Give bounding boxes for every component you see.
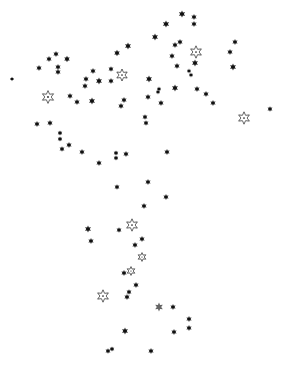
star-icon xyxy=(172,42,177,48)
hollow-star-icon xyxy=(239,112,250,124)
star-icon xyxy=(115,184,120,190)
star-icon xyxy=(141,203,146,209)
star-icon xyxy=(132,242,137,248)
star-icon xyxy=(89,98,95,105)
star-icon xyxy=(82,83,87,89)
hollow-star-icon xyxy=(117,69,127,81)
star-icon xyxy=(79,149,84,155)
star-icon xyxy=(108,78,113,84)
star-icon xyxy=(152,34,158,41)
star-icon xyxy=(146,76,152,83)
hollow-star-icon xyxy=(98,290,109,302)
star-icon xyxy=(145,179,150,185)
star-icon xyxy=(155,303,163,312)
hollow-star-icon xyxy=(191,46,202,58)
star-icon xyxy=(191,14,196,20)
star-icon xyxy=(85,226,91,233)
hollow-star-icon xyxy=(138,253,146,262)
star-icon xyxy=(148,348,153,354)
star-icon xyxy=(117,227,122,233)
star-icon xyxy=(122,328,128,335)
star-icon xyxy=(174,63,179,69)
star-icon xyxy=(203,91,208,97)
star-chart xyxy=(0,0,284,373)
star-icon xyxy=(171,329,176,335)
star-icon xyxy=(163,20,169,27)
star-icon xyxy=(46,56,51,62)
star-icon xyxy=(139,236,144,242)
star-icon xyxy=(227,49,232,55)
star-icon xyxy=(210,100,215,106)
star-icon xyxy=(125,43,131,50)
star-icon xyxy=(36,65,41,71)
star-icon xyxy=(109,66,114,72)
star-icon xyxy=(187,69,191,74)
star-icon xyxy=(121,97,126,103)
star-icon xyxy=(186,325,191,331)
star-icon xyxy=(67,93,72,99)
star-icon xyxy=(124,294,129,300)
star-icon xyxy=(10,77,14,81)
star-icon xyxy=(194,86,199,92)
star-icon xyxy=(172,85,178,92)
star-icon xyxy=(90,68,95,74)
star-icon xyxy=(66,142,71,148)
star-icon xyxy=(191,21,196,27)
star-icon xyxy=(60,146,65,152)
star-icon xyxy=(121,270,126,276)
star-icon xyxy=(127,289,132,295)
star-icon xyxy=(110,346,115,351)
star-icon xyxy=(106,348,111,354)
star-icon xyxy=(177,39,182,45)
star-icon xyxy=(34,121,39,127)
star-icon xyxy=(123,151,128,157)
star-icon xyxy=(55,69,60,75)
hollow-star-icon xyxy=(127,267,135,276)
star-icon xyxy=(144,120,149,126)
star-icon xyxy=(96,160,101,166)
star-icon xyxy=(83,76,88,82)
star-icon xyxy=(169,53,174,59)
star-icon xyxy=(53,51,58,57)
star-icon xyxy=(186,316,191,322)
star-icon xyxy=(114,155,119,160)
star-icon xyxy=(88,238,93,244)
star-icon xyxy=(114,50,120,56)
star-icon xyxy=(143,114,148,120)
star-icon xyxy=(230,64,236,71)
star-icon xyxy=(114,150,119,155)
star-icon xyxy=(158,100,163,106)
star-icon xyxy=(145,94,150,100)
star-icon xyxy=(118,103,123,109)
star-icon xyxy=(47,120,52,126)
star-icon xyxy=(192,60,198,67)
star-icon xyxy=(163,194,168,200)
hollow-star-icon xyxy=(42,91,53,104)
hollow-star-icon xyxy=(127,219,138,231)
star-icon xyxy=(74,99,79,105)
star-icon xyxy=(232,39,237,45)
star-icon xyxy=(58,136,63,141)
star-icon xyxy=(268,106,273,112)
star-icon xyxy=(164,149,169,155)
star-icon xyxy=(58,130,63,135)
star-icon xyxy=(170,304,175,310)
star-icon xyxy=(189,73,193,78)
star-field xyxy=(0,0,284,373)
star-icon xyxy=(133,282,138,288)
star-icon xyxy=(64,56,70,62)
star-icon xyxy=(179,10,185,17)
star-icon xyxy=(96,78,102,85)
